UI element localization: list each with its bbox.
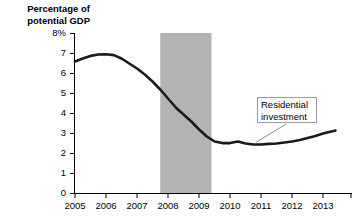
y-tick-label-4: 4 xyxy=(40,107,66,118)
x-axis-ticks xyxy=(75,194,351,199)
x-tick-label-2008: 2008 xyxy=(151,200,185,211)
y-tick-label-6: 6 xyxy=(40,67,66,78)
y-axis-ticks xyxy=(70,34,75,194)
y-tick-label-8: 8% xyxy=(40,27,66,38)
x-tick-label-2013: 2013 xyxy=(306,200,340,211)
residential-investment-annotation: Residential investment xyxy=(257,97,317,123)
x-tick-label-2006: 2006 xyxy=(89,200,123,211)
y-tick-label-3: 3 xyxy=(40,127,66,138)
y-tick-label-7: 7 xyxy=(40,47,66,58)
annotation-leader-line xyxy=(256,124,286,142)
chart-figure: Percentage of potential GDP xyxy=(0,0,354,222)
y-tick-label-5: 5 xyxy=(40,87,66,98)
y-tick-label-1: 1 xyxy=(40,167,66,178)
x-tick-label-2010: 2010 xyxy=(213,200,247,211)
x-tick-label-2011: 2011 xyxy=(244,200,278,211)
x-tick-label-2009: 2009 xyxy=(182,200,216,211)
x-tick-label-2005: 2005 xyxy=(58,200,92,211)
x-tick-label-2012: 2012 xyxy=(275,200,309,211)
x-tick-label-2007: 2007 xyxy=(120,200,154,211)
recession-shading-band xyxy=(160,33,211,193)
y-tick-label-0: 0 xyxy=(40,187,66,198)
y-tick-label-2: 2 xyxy=(40,147,66,158)
